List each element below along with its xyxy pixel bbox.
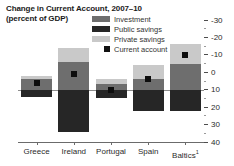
bar-segment-public-savings [58,90,89,132]
y-axis-tick: 10 [204,85,220,94]
x-axis-tick [37,142,38,145]
bar-segment-investment [170,64,201,90]
y-axis-tick-label: 30 [211,120,220,129]
current-account-marker [108,87,114,93]
tick-dash-icon [204,72,208,73]
y-axis-minor-tick [204,111,209,120]
y-axis-minor-tick [204,77,209,86]
tick-dash-icon [204,124,208,125]
tick-dash-icon [204,89,208,90]
tick-dash-icon [204,115,206,116]
y-axis-tick: -30 [204,16,223,25]
bar-segment-private-savings [96,79,127,83]
bar-segment-private-savings [58,48,89,62]
y-axis-tick-label: 40 [211,138,220,147]
bar-group [58,20,89,142]
x-axis-tick-label: Baltics1 [172,147,199,161]
y-axis-minor-tick [204,24,209,33]
bar-segment-public-savings [170,90,201,111]
tick-dash-icon [204,20,208,21]
bar-group [133,20,164,142]
tick-dash-icon [204,133,206,134]
y-axis-tick: 0 [204,68,215,77]
bar-segment-private-savings [21,76,52,79]
x-axis-tick-label: Spain [138,147,158,157]
tick-dash-icon [204,81,206,82]
y-axis-minor-tick [204,94,209,103]
x-axis-tick-label: Greece [23,147,49,157]
current-account-marker [145,76,151,82]
y-axis-minor-tick [204,59,209,68]
y-axis-tick: 30 [204,120,220,129]
bar-segment-public-savings [133,90,164,111]
y-axis-tick-label: 0 [211,68,215,77]
y-axis-tick-label: -30 [211,16,223,25]
current-account-marker [182,52,188,58]
current-account-marker [71,71,77,77]
x-axis: GreeceIrelandPortugalSpainBaltics1 [18,142,206,164]
bar-segment-public-savings [21,90,52,97]
y-axis: -30-20-10010203040 [204,20,234,144]
y-axis-tick: -20 [204,33,223,42]
x-axis-tick-label: Portugal [96,147,126,157]
x-axis-tick [148,142,149,145]
x-axis-tick [111,142,112,145]
bar-group [170,20,201,142]
bar-group [21,20,52,142]
bar-group [96,20,127,142]
tick-dash-icon [204,98,206,99]
chart-figure: Change in Current Account, 2007–10 (perc… [0,0,234,166]
y-axis-tick-label: 20 [211,103,220,112]
x-axis-tick [185,142,186,145]
tick-dash-icon [204,28,206,29]
tick-dash-icon [204,63,206,64]
tick-dash-icon [204,37,208,38]
tick-dash-icon [204,107,208,108]
x-axis-tick-label: Ireland [62,147,86,157]
y-axis-tick-label: -10 [211,50,223,59]
tick-dash-icon [204,54,208,55]
y-axis-tick: -10 [204,50,223,59]
current-account-marker [34,80,40,86]
plot-area [18,20,204,142]
footnote-marker: 1 [196,149,199,155]
y-axis-minor-tick [204,129,209,138]
y-axis-tick-label: 10 [211,85,220,94]
y-axis-tick: 40 [204,138,220,147]
tick-dash-icon [204,46,206,47]
x-axis-tick [74,142,75,145]
y-axis-tick: 20 [204,103,220,112]
y-axis-minor-tick [204,42,209,51]
chart-title: Change in Current Account, 2007–10 [6,4,142,14]
y-axis-tick-label: -20 [211,33,223,42]
